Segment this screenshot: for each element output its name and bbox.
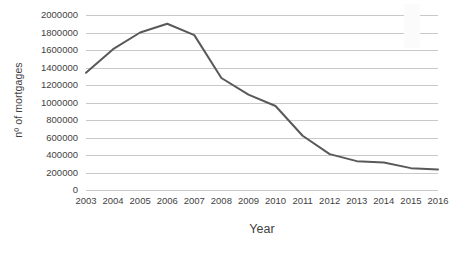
x-axis-tick-label: 2004 [102, 194, 123, 208]
x-axis-tick-labels: 2003200420052006200720082009201020112012… [86, 194, 438, 210]
x-axis-tick-label: 2016 [427, 194, 448, 208]
x-axis-tick-label: 2009 [238, 194, 259, 208]
x-axis-tick-label: 2007 [184, 194, 205, 208]
y-axis-tick-label: 1600000 [41, 45, 78, 55]
x-axis-title: Year [86, 222, 438, 236]
y-axis-tick-label: 800000 [46, 115, 78, 125]
x-axis-tick-label: 2012 [319, 194, 340, 208]
x-axis-tick-label: 2011 [292, 194, 312, 208]
gridline [86, 190, 438, 191]
y-axis-tick-label: 600000 [46, 133, 78, 143]
x-axis-tick-label: 2006 [157, 194, 178, 208]
line-chart: nº of mortgages 020000040000060000080000… [0, 0, 449, 255]
y-axis-tick-label: 1200000 [41, 80, 78, 90]
y-axis-tick-labels: 0200000400000600000800000100000012000001… [24, 15, 82, 190]
x-axis-tick-label: 2015 [400, 194, 421, 208]
y-axis-tick-label: 1800000 [41, 28, 78, 38]
y-axis-tick-label: 1000000 [41, 98, 78, 108]
x-axis-tick-label: 2010 [265, 194, 286, 208]
x-axis-tick-label: 2014 [373, 194, 394, 208]
x-axis-tick-label: 2013 [346, 194, 367, 208]
plot-area [86, 15, 438, 190]
x-axis-tick-label: 2003 [75, 194, 96, 208]
series-line-mortgages [86, 24, 438, 170]
y-axis-tick-label: 200000 [46, 168, 78, 178]
series-svg [86, 15, 438, 190]
y-axis-tick-label: 2000000 [41, 10, 78, 20]
x-axis-tick-label: 2005 [130, 194, 151, 208]
y-axis-tick-label: 400000 [46, 150, 78, 160]
x-axis-tick-label: 2008 [211, 194, 232, 208]
y-axis-title-label: nº of mortgages [12, 62, 24, 137]
y-axis-tick-label: 1400000 [41, 63, 78, 73]
